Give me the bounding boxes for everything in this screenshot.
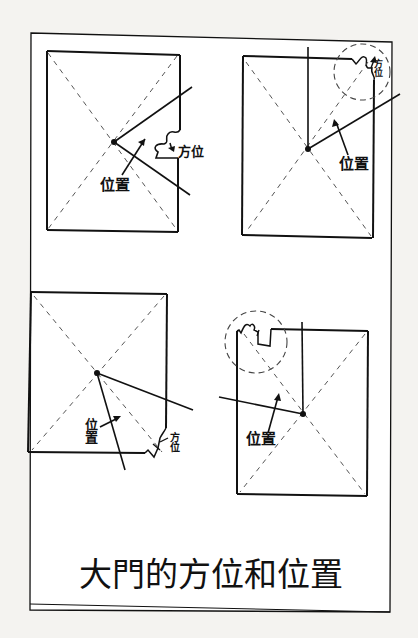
diagram-canvas: [0, 0, 418, 638]
outer-frame: [30, 33, 392, 612]
panel2-position-label: 位置: [339, 157, 369, 172]
panel1-position-label: 位置: [100, 178, 130, 193]
diagram-title: 大門的方位和位置: [30, 548, 392, 596]
panel4-position-label: 位置: [246, 432, 276, 447]
panel3-position-label: 位置: [84, 418, 97, 444]
panel3-direction-label: 方位: [168, 432, 178, 452]
panel1-direction-label: 方位: [178, 145, 204, 158]
panel2-direction-label: 方位: [373, 59, 382, 77]
